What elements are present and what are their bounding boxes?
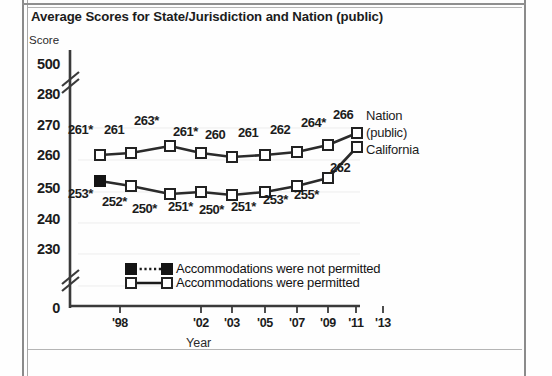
data-label-california-0: 253* [68, 186, 93, 201]
series-label-nation-line1: Nation [366, 108, 402, 123]
legend-item-permitted: Accommodations were permitted [176, 275, 360, 290]
data-label-california-6: 253* [263, 192, 288, 207]
marker-filled-first [95, 176, 105, 186]
data-label-california-1: 252* [102, 194, 127, 209]
chart-figure: Average Scores for State/Jurisdiction an… [0, 0, 552, 376]
data-label-california-8: 262 [330, 160, 350, 175]
series-markers-nation [95, 128, 362, 162]
data-label-nation-5: 261 [238, 125, 258, 140]
data-label-nation-4: 260 [205, 127, 225, 142]
data-label-california-7: 255* [294, 187, 319, 202]
data-label-california-2: 250* [132, 201, 157, 216]
data-label-nation-2: 263* [134, 113, 159, 128]
series-label-california: California [366, 142, 419, 157]
data-label-california-3: 251* [168, 199, 193, 214]
data-label-california-4: 250* [199, 202, 224, 217]
data-label-nation-8: 266 [333, 107, 353, 122]
data-label-nation-6: 262 [270, 122, 290, 137]
data-label-nation-0: 261* [68, 122, 93, 137]
data-label-nation-3: 261* [173, 124, 198, 139]
data-label-california-5: 251* [231, 199, 256, 214]
data-label-nation-1: 261 [104, 122, 124, 137]
legend-item-not-permitted: Accommodations were not permitted [176, 261, 380, 276]
data-label-nation-7: 264* [301, 115, 326, 130]
series-label-nation-line2: (public) [366, 125, 407, 140]
legend-swatch-not-permitted [126, 264, 172, 274]
